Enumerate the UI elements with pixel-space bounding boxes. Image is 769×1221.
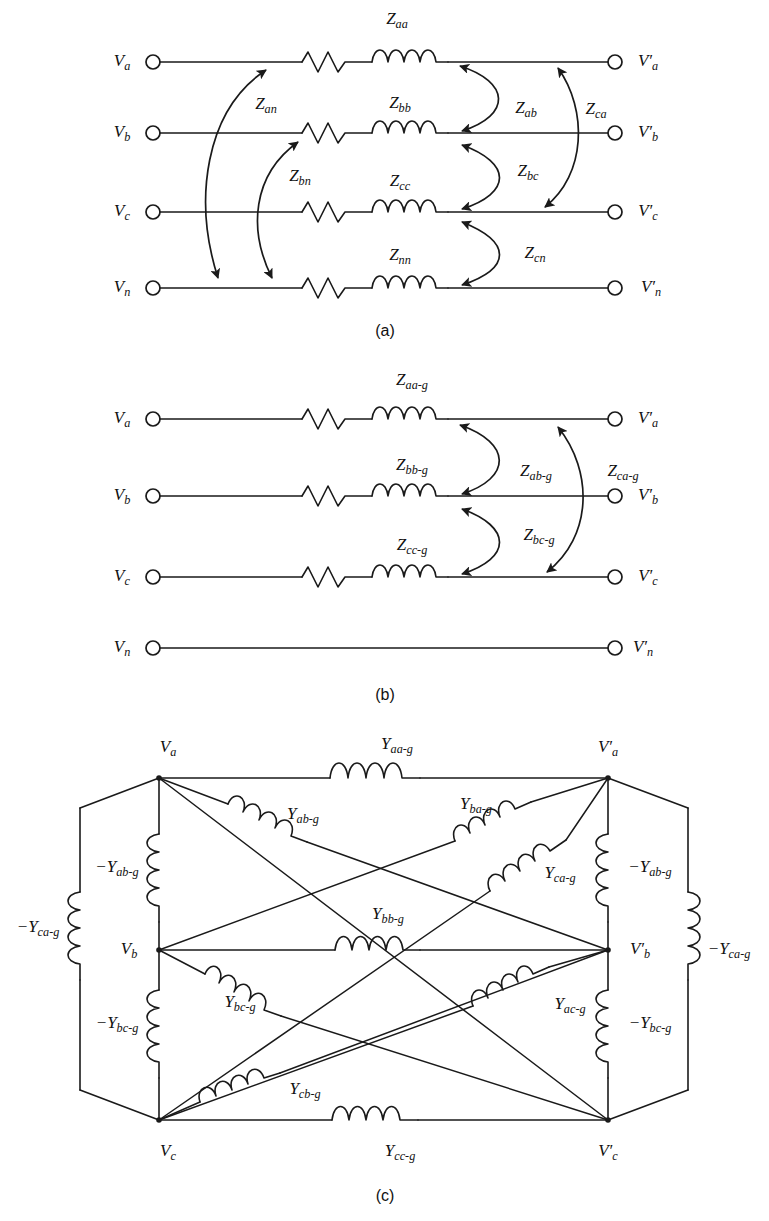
label-node-vpb-c: V′b <box>630 940 650 960</box>
label-node-va-c: Va <box>160 738 177 758</box>
inductor-nycag-left <box>68 892 80 980</box>
panel-a-graphics <box>146 50 622 298</box>
node-dot-vpc <box>605 1117 611 1123</box>
label-zca: Zca <box>585 100 606 120</box>
diagonal-wire-bc-seg2 <box>281 1016 608 1120</box>
figure-root: Va Vb Vc Vn V′a V′b V′c V′n Zaa Zbb Zcc … <box>0 0 769 1221</box>
resistor-zbbg <box>302 486 372 506</box>
label-vb-b: Vb <box>114 486 131 506</box>
terminal-circle-vpn[interactable] <box>608 281 622 295</box>
resistor-zcc <box>302 202 372 222</box>
label-va: Va <box>114 52 131 72</box>
diagonal-wire-cb-seg1 <box>159 1102 200 1120</box>
terminal-circle-va-b[interactable] <box>146 412 160 426</box>
label-zaa: Zaa <box>386 10 408 30</box>
label-zbn: Zbn <box>289 167 311 187</box>
panel-b-row-b <box>146 484 622 506</box>
label-vb: Vb <box>114 123 131 143</box>
label-vpn-b: V′n <box>633 638 653 658</box>
mutual-arc-zbn <box>258 142 298 278</box>
label-nybcg-right: −Ybc-g <box>629 1014 672 1034</box>
label-nybcg-left: −Ybc-g <box>96 1014 139 1034</box>
label-nycag-left: −Yca-g <box>17 918 60 938</box>
resistor-zbb <box>302 123 372 143</box>
label-yaag: Yaa-g <box>381 735 413 755</box>
terminal-circle-vpa[interactable] <box>608 55 622 69</box>
left-outer-bottom <box>80 1090 159 1120</box>
label-ybag: Yba-g <box>460 795 492 815</box>
inductor-yaag <box>330 763 420 778</box>
label-zab: Zab <box>515 99 537 119</box>
label-vpa: V′a <box>638 52 658 72</box>
label-zbc: Zbc <box>517 162 538 182</box>
terminal-circle-vb-b[interactable] <box>146 489 160 503</box>
inductor-zcc <box>372 200 448 212</box>
inductor-zbb <box>372 121 448 133</box>
label-yabg: Yab-g <box>287 805 319 825</box>
resistor-zaag <box>302 409 372 429</box>
mutual-arc-zabg <box>460 425 499 494</box>
label-node-vc-c: Vc <box>160 1142 176 1162</box>
terminal-circle-va[interactable] <box>146 55 160 69</box>
label-vpn: V′n <box>641 278 661 298</box>
label-ybbg: Ybb-g <box>372 905 404 925</box>
diagonal-wire-acg-seg1 <box>159 1006 473 1120</box>
node-dot-vpa <box>605 775 611 781</box>
inductor-zaa <box>372 50 448 62</box>
node-dot-vc <box>156 1117 162 1123</box>
panel-caption-b: (b) <box>375 686 395 704</box>
node-dot-va <box>156 775 162 781</box>
terminal-circle-vpc-b[interactable] <box>608 570 622 584</box>
label-vn: Vn <box>114 278 131 298</box>
circuit-diagram-svg <box>0 0 769 1221</box>
terminal-circle-vpa-b[interactable] <box>608 412 622 426</box>
label-vc-b: Vc <box>114 567 130 587</box>
label-ybcg: Ybc-g <box>224 993 255 1013</box>
left-outer-top <box>80 778 159 808</box>
panel-caption-a: (a) <box>375 322 395 340</box>
terminal-circle-vn-b[interactable] <box>146 641 160 655</box>
label-vpb: V′b <box>638 123 658 143</box>
terminal-circle-vc-b[interactable] <box>146 570 160 584</box>
label-vc: Vc <box>114 202 130 222</box>
terminal-circle-vpb-b[interactable] <box>608 489 622 503</box>
resistor-zaa <box>302 52 372 72</box>
terminal-circle-vpn-b[interactable] <box>608 641 622 655</box>
inductor-nycag-right <box>688 892 700 980</box>
resistor-znn <box>302 278 372 298</box>
label-zcag: Zca-g <box>607 462 638 482</box>
inductor-zbbg <box>372 484 448 496</box>
panel-b-row-n <box>146 641 622 655</box>
mutual-arc-zbcg <box>462 509 500 574</box>
label-nycag-right: −Yca-g <box>708 940 751 960</box>
inductor-nyabg-left <box>147 834 159 922</box>
diagonal-wire-bc-seg1 <box>159 950 205 974</box>
diagonal-wire-ca-seg1 <box>159 891 490 1120</box>
label-nyabg-left: −Yab-g <box>95 858 138 878</box>
label-nyabg-right: −Yab-g <box>628 858 671 878</box>
label-vpc-b: V′c <box>638 567 658 587</box>
label-vn-b: Vn <box>114 638 131 658</box>
label-vpa-b: V′a <box>638 409 658 429</box>
label-va-b: Va <box>114 409 131 429</box>
panel-a-row-n <box>146 276 622 298</box>
label-vpb-b: V′b <box>638 486 658 506</box>
diagonal-wire-ab-seg2 <box>307 842 608 950</box>
terminal-circle-vc[interactable] <box>146 205 160 219</box>
terminal-circle-vn[interactable] <box>146 281 160 295</box>
inductor-zccg <box>372 565 448 577</box>
inductor-yccg <box>332 1107 418 1121</box>
panel-b-row-a <box>146 407 622 429</box>
terminal-circle-vb[interactable] <box>146 126 160 140</box>
label-znn: Znn <box>389 246 411 266</box>
label-zbb: Zbb <box>389 94 411 114</box>
node-dot-vpb <box>605 947 611 953</box>
terminal-circle-vpc[interactable] <box>608 205 622 219</box>
terminal-circle-vpb[interactable] <box>608 126 622 140</box>
label-zcc: Zcc <box>390 172 410 192</box>
diagonal-wire-ab-seg1 <box>159 778 228 804</box>
label-ycbg: Ycb-g <box>289 1080 320 1100</box>
inductor-ycbg <box>199 1069 280 1102</box>
label-zabg: Zab-g <box>520 462 552 482</box>
resistor-zccg <box>302 567 372 587</box>
